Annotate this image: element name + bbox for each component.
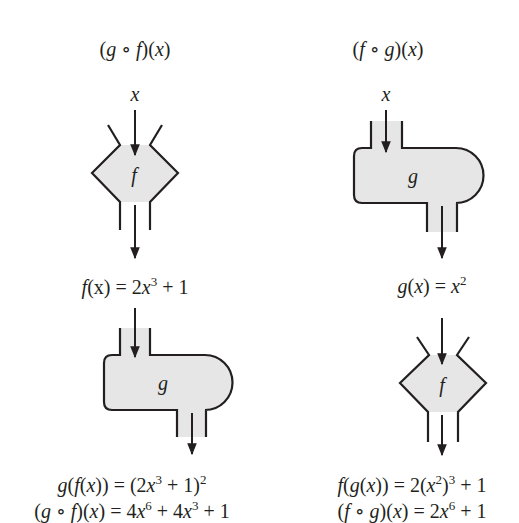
left-result-line-1: g(f(x)) = (2x3 + 1)2 (58, 472, 207, 497)
g-machine-label: g (158, 372, 168, 395)
left-result-line-2: (g ∘ f)(x) = 4x6 + 4x3 + 1 (34, 498, 230, 523)
right-result-line-2: (f ∘ g)(x) = 2x6 + 1 (338, 498, 487, 523)
g-machine-icon: g (354, 121, 484, 232)
left-input-label: x (130, 83, 140, 105)
g-machine-icon: g (104, 328, 233, 437)
right-title: (f ∘ g)(x) (353, 38, 424, 61)
left-column: (g ∘ f)(x) x f f(x) = 2x3 + 1 g g(f(x)) … (34, 38, 232, 523)
right-intermediate-formula: g(x) = x2 (398, 273, 467, 298)
g-machine-label: g (408, 165, 418, 188)
left-title: (g ∘ f)(x) (100, 38, 171, 61)
right-result-line-1: f(g(x)) = 2(x2)3 + 1 (338, 472, 487, 497)
right-column: (f ∘ g)(x) x g g(x) = x2 f f(g(x)) = 2(x… (338, 38, 487, 523)
right-input-label: x (381, 83, 391, 105)
function-composition-diagram: (g ∘ f)(x) x f f(x) = 2x3 + 1 g g(f(x)) … (0, 0, 519, 523)
left-intermediate-formula: f(x) = 2x3 + 1 (82, 274, 189, 299)
